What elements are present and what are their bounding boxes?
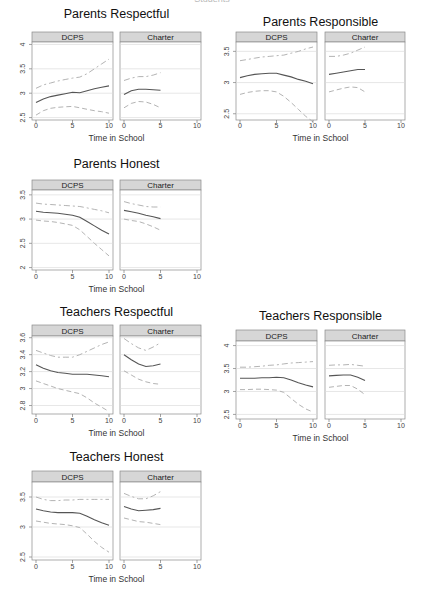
y-tick-label: 2.8 xyxy=(19,401,26,411)
x-axis-label: Time in School xyxy=(89,574,145,584)
y-tick-label: 2.5 xyxy=(19,113,26,123)
panel-label: Charter xyxy=(352,33,379,42)
plot-area xyxy=(325,42,405,120)
x-tick-label: 5 xyxy=(71,563,75,570)
x-tick-label: 5 xyxy=(71,273,75,280)
x-tick-label: 5 xyxy=(363,122,367,129)
y-tick-label: 4 xyxy=(223,344,230,348)
plot-area xyxy=(32,482,113,560)
x-tick-label: 10 xyxy=(193,417,201,424)
chart-parents-responsible: Parents Responsible2.533.5DCPS0510Charte… xyxy=(223,15,405,143)
x-tick-label: 10 xyxy=(193,273,201,280)
y-tick-label: 2.5 xyxy=(223,109,230,119)
x-tick-label: 5 xyxy=(363,422,367,429)
chart-teachers-honest: Teachers Honest2.533.5DCPS0510Charter051… xyxy=(19,450,201,584)
panel-charter: Charter0510 xyxy=(325,32,405,129)
x-tick-label: 0 xyxy=(238,122,242,129)
x-tick-label: 0 xyxy=(34,122,38,129)
y-tick-label: 3.5 xyxy=(19,190,26,200)
panel-label: DCPS xyxy=(61,327,83,336)
panel-charter: Charter0510 xyxy=(120,325,201,424)
y-tick-label: 3 xyxy=(19,217,26,221)
chart-teachers-responsible: Teachers Responsible2.533.54DCPS0510Char… xyxy=(223,309,405,443)
chart-title: Teachers Respectful xyxy=(60,305,173,319)
panel-label: DCPS xyxy=(265,33,287,42)
x-tick-label: 10 xyxy=(193,122,201,129)
panel-dcps: DCPS0510 xyxy=(32,325,113,424)
chart-teachers-respectful: Teachers Respectful2.833.23.43.6DCPS0510… xyxy=(19,305,201,438)
panel-label: Charter xyxy=(352,332,379,341)
y-tick-label: 3.5 xyxy=(223,46,230,56)
panel-label: Charter xyxy=(147,181,174,190)
x-tick-label: 0 xyxy=(238,422,242,429)
x-tick-label: 10 xyxy=(105,563,113,570)
x-tick-label: 5 xyxy=(159,417,163,424)
chart-title: Teachers Honest xyxy=(70,450,164,464)
panel-dcps: DCPS0510 xyxy=(32,471,113,570)
panel-dcps: DCPS0510 xyxy=(32,32,113,129)
x-tick-label: 10 xyxy=(309,422,317,429)
plot-area xyxy=(120,482,201,560)
panel-label: Charter xyxy=(147,473,174,482)
x-axis-label: Time in School xyxy=(293,133,349,143)
panel-charter: Charter0510 xyxy=(120,471,201,570)
x-tick-label: 10 xyxy=(397,122,405,129)
x-tick-label: 0 xyxy=(34,273,38,280)
y-tick-label: 2.5 xyxy=(19,238,26,248)
x-tick-label: 0 xyxy=(34,417,38,424)
x-tick-label: 5 xyxy=(275,422,279,429)
panel-charter: Charter0510 xyxy=(120,32,201,129)
panel-label: Charter xyxy=(147,33,174,42)
y-tick-label: 3.6 xyxy=(19,333,26,343)
panel-charter: Charter0510 xyxy=(120,180,201,280)
x-tick-label: 5 xyxy=(159,273,163,280)
plot-area xyxy=(32,336,113,414)
x-tick-label: 5 xyxy=(275,122,279,129)
x-axis-label: Time in School xyxy=(89,428,145,438)
x-tick-label: 10 xyxy=(105,122,113,129)
y-tick-label: 3 xyxy=(223,81,230,85)
chart-title: Parents Respectful xyxy=(64,7,170,21)
x-axis-label: Time in School xyxy=(89,133,145,143)
y-tick-label: 2 xyxy=(19,266,26,270)
x-tick-label: 10 xyxy=(193,563,201,570)
chart-title: Teachers Responsible xyxy=(259,309,382,323)
x-axis-label: Time in School xyxy=(89,284,145,294)
x-tick-label: 0 xyxy=(122,417,126,424)
panel-label: DCPS xyxy=(61,473,83,482)
y-tick-label: 4 xyxy=(19,42,26,46)
x-tick-label: 0 xyxy=(122,273,126,280)
top-cut-text: Students xyxy=(194,0,230,4)
x-tick-label: 0 xyxy=(327,122,331,129)
chart-title: Parents Responsible xyxy=(263,15,378,29)
x-tick-label: 0 xyxy=(34,563,38,570)
y-tick-label: 3.5 xyxy=(19,64,26,74)
y-tick-label: 3 xyxy=(19,387,26,391)
x-tick-label: 10 xyxy=(309,122,317,129)
chart-figure: Students Parents Respectful2.533.54DCPS0… xyxy=(0,0,424,590)
panel-dcps: DCPS0510 xyxy=(236,32,317,129)
y-tick-label: 3.5 xyxy=(223,364,230,374)
x-tick-label: 5 xyxy=(71,417,75,424)
x-tick-label: 10 xyxy=(397,422,405,429)
x-tick-label: 5 xyxy=(71,122,75,129)
x-tick-label: 0 xyxy=(122,563,126,570)
x-tick-label: 5 xyxy=(159,122,163,129)
x-axis-label: Time in School xyxy=(293,433,349,443)
chart-title: Parents Honest xyxy=(73,157,160,171)
chart-parents-respectful: Parents Respectful2.533.54DCPS0510Charte… xyxy=(19,7,201,143)
plot-area xyxy=(120,42,201,120)
plot-area xyxy=(32,42,113,120)
panel-dcps: DCPS0510 xyxy=(236,330,317,429)
x-tick-label: 0 xyxy=(327,422,331,429)
x-tick-label: 10 xyxy=(105,417,113,424)
x-tick-label: 5 xyxy=(159,563,163,570)
panel-label: Charter xyxy=(147,327,174,336)
panel-label: DCPS xyxy=(265,332,287,341)
charts-container: Parents Respectful2.533.54DCPS0510Charte… xyxy=(19,7,405,584)
x-tick-label: 0 xyxy=(122,122,126,129)
y-tick-label: 3 xyxy=(19,91,26,95)
panel-label: DCPS xyxy=(61,33,83,42)
y-tick-label: 3 xyxy=(19,525,26,529)
chart-parents-honest: Parents Honest22.533.5DCPS0510Charter051… xyxy=(19,157,201,294)
